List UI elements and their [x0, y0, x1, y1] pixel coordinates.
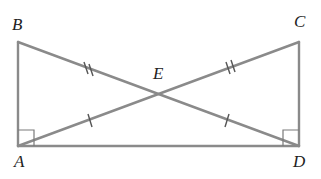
label-C: C	[294, 12, 305, 32]
label-A: A	[14, 152, 24, 172]
label-B: B	[12, 15, 22, 35]
label-E: E	[153, 64, 163, 84]
geometry-figure	[0, 0, 321, 179]
label-D: D	[293, 152, 305, 172]
